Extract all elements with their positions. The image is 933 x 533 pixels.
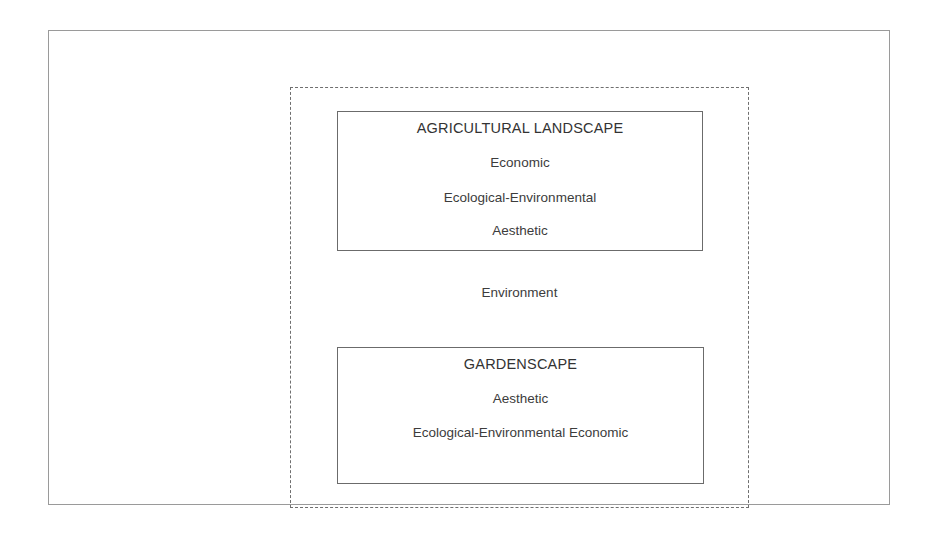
agricultural-landscape-item-ecological-environmental: Ecological-Environmental — [338, 191, 702, 205]
agricultural-landscape-item-aesthetic: Aesthetic — [338, 224, 702, 238]
agricultural-landscape-title: AGRICULTURAL LANDSCAPE — [338, 121, 702, 136]
gardenscape-item-ecological-environmental-economic: Ecological-Environmental Economic — [338, 426, 703, 440]
agricultural-landscape-item-economic: Economic — [338, 156, 702, 170]
environment-label: Environment — [290, 286, 749, 300]
outer-frame: AGRICULTURAL LANDSCAPE Economic Ecologic… — [48, 30, 890, 505]
gardenscape-item-aesthetic: Aesthetic — [338, 392, 703, 406]
agricultural-landscape-box: AGRICULTURAL LANDSCAPE Economic Ecologic… — [337, 111, 703, 251]
gardenscape-box: GARDENSCAPE Aesthetic Ecological-Environ… — [337, 347, 704, 484]
gardenscape-title: GARDENSCAPE — [338, 357, 703, 372]
